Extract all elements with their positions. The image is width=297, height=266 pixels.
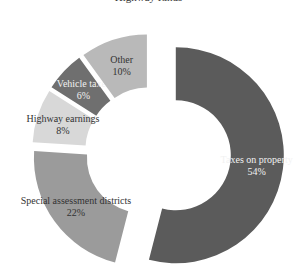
slice-label: Other <box>110 54 133 65</box>
slice-percent: 22% <box>67 207 85 218</box>
donut-chart: Taxes on property54%Special assessment d… <box>0 0 297 266</box>
slice-label: Highway earnings <box>26 113 99 124</box>
slice-percent: 54% <box>247 166 265 177</box>
slice-percent: 10% <box>113 66 131 77</box>
slice-percent: 6% <box>77 90 90 101</box>
slice-label: Special assessment districts <box>21 195 132 206</box>
slice-label: Taxes on property <box>221 154 293 165</box>
slice-percent: 8% <box>56 125 69 136</box>
